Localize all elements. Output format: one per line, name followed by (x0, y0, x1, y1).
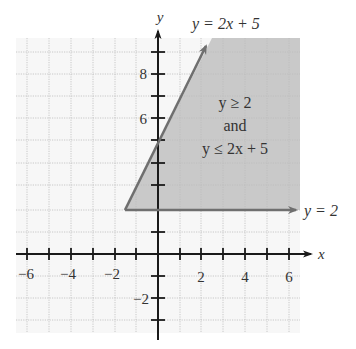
inequality-graph: y x −6 −4 −2 2 4 6 8 6 −2 y = 2x + 5 y =… (0, 0, 356, 349)
annotation-line-y-2: y = 2 (302, 202, 338, 220)
y-tick-label: −2 (133, 291, 149, 307)
x-axis-label: x (317, 246, 325, 262)
x-tick-label: −4 (60, 266, 76, 282)
x-tick-label: −2 (104, 266, 120, 282)
x-tick-label: 4 (241, 269, 249, 285)
x-tick-label: 2 (197, 269, 205, 285)
annotation-line-2x-plus-5: y = 2x + 5 (190, 15, 260, 33)
y-tick-label: 8 (140, 66, 148, 82)
x-tick-label: −6 (18, 266, 34, 282)
y-axis-label: y (155, 9, 164, 25)
region-label-line1: y ≥ 2 (219, 94, 252, 112)
y-tick-label: 6 (140, 111, 148, 127)
x-tick-label: 6 (285, 269, 293, 285)
region-label-line2: and (223, 117, 246, 134)
region-label-line3: y ≤ 2x + 5 (202, 140, 268, 158)
